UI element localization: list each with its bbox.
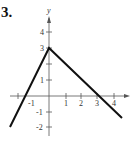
x-tick-label: 4 (112, 99, 116, 108)
x-tick-label: 3 (95, 99, 99, 108)
x-axis-arrow-icon (124, 94, 130, 98)
y-tick-label: -2 (36, 123, 43, 132)
y-axis (46, 18, 52, 136)
y-tick-label: 1 (40, 76, 44, 85)
line-graph: y -1 1 2 3 4 4 3 1 -1 -2 (0, 0, 133, 143)
x-tick-label: 1 (64, 99, 68, 108)
y-axis-label: y (46, 6, 51, 15)
x-tick-label: 2 (79, 99, 83, 108)
data-line (10, 48, 122, 127)
y-tick-label: -1 (36, 108, 43, 117)
y-tick-label: 3 (40, 44, 44, 53)
y-axis-arrow-icon (47, 16, 51, 23)
y-tick-label: 4 (40, 28, 44, 37)
x-tick-label: -1 (28, 99, 35, 108)
